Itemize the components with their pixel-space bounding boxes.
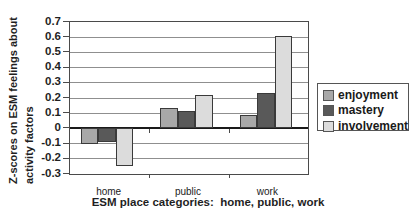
- y-tick-label-0.2: 0.2: [29, 91, 61, 104]
- y-axis-tick-0: [63, 127, 69, 128]
- plot-area: [69, 21, 309, 175]
- legend-label-mastery: mastery: [338, 104, 384, 117]
- category-boundary-tick-bottom-1: [149, 174, 150, 178]
- category-boundary-tick-zero-2: [229, 129, 230, 133]
- y-tick-label-0.4: 0.4: [29, 60, 61, 73]
- bar-mastery-home: [98, 128, 115, 142]
- legend-swatch-involvement: [323, 121, 334, 132]
- bar-enjoyment-home: [81, 128, 98, 143]
- y-tick-label-0.5: 0.5: [29, 45, 61, 58]
- legend: enjoymentmasteryinvolvement: [317, 83, 409, 131]
- bar-enjoyment-work: [240, 115, 257, 128]
- gridline-0.3: [70, 82, 308, 83]
- bar-enjoyment-public: [160, 108, 177, 129]
- x-axis-title: ESM place categories: home, public, work: [58, 196, 358, 208]
- y-axis-tick-0.7: [63, 21, 69, 22]
- bar-mastery-public: [178, 111, 195, 128]
- y-tick-label-0.1: 0.1: [29, 106, 61, 119]
- legend-item-mastery: mastery: [323, 104, 408, 118]
- y-axis-tick-0.5: [63, 51, 69, 52]
- y-axis-title-line1: Z-scores on ESM feelings about: [5, 12, 21, 184]
- category-label-home: home: [79, 186, 139, 197]
- bar-involvement-home: [116, 128, 133, 165]
- legend-label-involvement: involvement: [338, 120, 408, 133]
- y-tick-label-0: 0: [29, 121, 61, 134]
- bar-mastery-work: [257, 93, 274, 129]
- y-axis-tick--0.2: [63, 158, 69, 159]
- category-label-work: work: [237, 186, 297, 197]
- gridline--0.1: [70, 143, 308, 144]
- category-boundary-tick-zero-1: [149, 129, 150, 133]
- y-tick-label-0.6: 0.6: [29, 30, 61, 43]
- y-tick-label--0.2: -0.2: [29, 151, 61, 164]
- legend-swatch-mastery: [323, 105, 334, 116]
- y-tick-label-0.7: 0.7: [29, 15, 61, 28]
- y-axis-tick-0.1: [63, 112, 69, 113]
- gridline-0.6: [70, 37, 308, 38]
- bar-involvement-public: [195, 95, 212, 128]
- category-boundary-tick-bottom-2: [229, 174, 230, 178]
- bar-involvement-work: [275, 36, 292, 128]
- y-axis-tick--0.3: [63, 173, 69, 174]
- legend-label-enjoyment: enjoyment: [338, 89, 398, 102]
- esm-bar-chart-figure: Z-scores on ESM feelings about activity …: [0, 0, 410, 211]
- y-tick-label--0.1: -0.1: [29, 136, 61, 149]
- legend-item-involvement: involvement: [323, 119, 408, 133]
- legend-swatch-enjoyment: [323, 90, 334, 101]
- y-axis-tick-0.4: [63, 67, 69, 68]
- y-axis-tick--0.1: [63, 143, 69, 144]
- y-axis-tick-0.6: [63, 36, 69, 37]
- gridline-0.5: [70, 52, 308, 53]
- y-tick-label-0.3: 0.3: [29, 75, 61, 88]
- gridline--0.2: [70, 158, 308, 159]
- y-axis-tick-0.3: [63, 82, 69, 83]
- legend-item-enjoyment: enjoyment: [323, 88, 408, 102]
- category-label-public: public: [158, 186, 218, 197]
- y-axis-tick-0.2: [63, 97, 69, 98]
- gridline-0.4: [70, 67, 308, 68]
- y-tick-label--0.3: -0.3: [29, 167, 61, 180]
